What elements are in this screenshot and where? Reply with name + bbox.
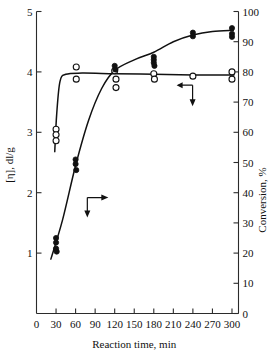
chart-plot-area: 1234501020304050607080901000306090120150… <box>0 0 274 353</box>
x-tick-label: 270 <box>204 318 221 330</box>
y-axis-title-right: Conversion, % <box>256 167 268 232</box>
data-point-open-circle <box>113 85 119 91</box>
data-point-filled-circle <box>74 167 79 172</box>
chart-figure: 1234501020304050607080901000306090120150… <box>0 0 274 353</box>
labels-group: 1234501020304050607080901000306090120150… <box>3 6 268 351</box>
y-tick-label-right: 10 <box>243 277 255 289</box>
x-tick-label: 30 <box>51 318 63 330</box>
data-point-filled-circle <box>152 63 157 68</box>
annotation-arrow-left-axis-stem <box>179 85 193 100</box>
y-tick-label-left: 3 <box>27 126 33 138</box>
data-point-open-circle <box>53 138 59 144</box>
data-point-filled-circle <box>113 67 118 72</box>
points-group <box>53 26 235 255</box>
y-tick-label-right: 50 <box>243 157 255 169</box>
data-point-open-circle <box>73 64 79 70</box>
y-tick-label-left: 2 <box>27 187 33 199</box>
data-point-open-circle <box>73 76 79 82</box>
annotation-arrow-left-axis-head-v <box>190 99 196 106</box>
data-point-open-circle <box>190 73 196 79</box>
annotation-arrow-right-axis-stem <box>87 198 103 213</box>
y-tick-label-right: 100 <box>243 6 260 18</box>
data-point-filled-circle <box>53 240 58 245</box>
y-tick-label-right: 70 <box>243 96 255 108</box>
data-point-filled-circle <box>73 161 78 166</box>
y-tick-label-right: 60 <box>243 126 255 138</box>
x-tick-label: 0 <box>34 318 40 330</box>
data-point-open-circle <box>229 76 235 82</box>
y-tick-label-left: 5 <box>27 6 33 18</box>
series-curve-viscosity <box>55 73 234 152</box>
y-tick-label-right: 20 <box>243 247 255 259</box>
x-tick-label: 210 <box>165 318 182 330</box>
x-tick-label: 240 <box>185 318 202 330</box>
annotations-group <box>84 82 195 217</box>
y-tick-label-right: 30 <box>243 217 255 229</box>
data-point-open-circle <box>151 76 157 82</box>
axes-group <box>37 12 239 314</box>
x-tick-label: 120 <box>106 318 123 330</box>
y-tick-label-right: 0 <box>243 308 249 320</box>
x-tick-label: 150 <box>126 318 143 330</box>
y-tick-label-left: 4 <box>27 66 33 78</box>
data-point-filled-circle <box>229 26 234 31</box>
data-point-filled-circle <box>54 249 59 254</box>
x-tick-label: 300 <box>224 318 241 330</box>
x-tick-label: 180 <box>146 318 163 330</box>
data-point-open-circle <box>53 132 59 138</box>
annotation-arrow-right-axis-head-v <box>84 211 90 218</box>
y-axis-title-left: [η], dl/g <box>3 147 15 183</box>
data-point-open-circle <box>229 69 235 75</box>
y-tick-label-right: 40 <box>243 187 255 199</box>
annotation-arrow-right-axis-head-h <box>101 195 108 201</box>
annotation-arrow-left-axis-head-h <box>177 82 183 88</box>
y-tick-label-right: 90 <box>243 36 255 48</box>
x-tick-label: 90 <box>90 318 102 330</box>
x-tick-label: 60 <box>70 318 82 330</box>
data-point-filled-circle <box>190 34 195 39</box>
x-axis-title: Reaction time, min <box>92 338 177 350</box>
data-point-filled-circle <box>229 34 234 39</box>
y-tick-label-left: 1 <box>27 247 33 259</box>
y-tick-label-right: 80 <box>243 66 255 78</box>
data-point-open-circle <box>113 76 119 82</box>
